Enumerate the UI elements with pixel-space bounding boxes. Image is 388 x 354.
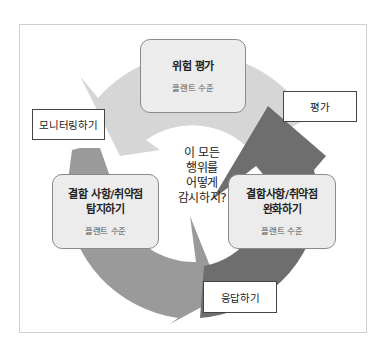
stage-title-line: 위험 평가 xyxy=(172,60,214,73)
action-label-monitor: 모니터링하기 xyxy=(32,109,105,140)
action-label-respond: 응답하기 xyxy=(203,281,277,313)
stage-subtitle: 플랜트 수준 xyxy=(261,224,303,236)
stage-title-line: 결함사항/취약점 xyxy=(246,187,318,202)
stage-title: 결함사항/취약점 완화하기 xyxy=(246,187,318,217)
stage-title-line: 탐지하기 xyxy=(68,202,143,217)
center-question-line: 행위를 xyxy=(164,161,240,176)
stage-title: 위험 평가 xyxy=(172,59,214,74)
center-question: 이 모든 행위를 어떻게 감시하지? xyxy=(164,146,240,206)
stage-title-line: 결함 사항/취약점 xyxy=(68,187,143,202)
stage-title: 결함 사항/취약점 탐지하기 xyxy=(68,187,143,217)
stage-detect: 결함 사항/취약점 탐지하기 플랜트 수준 xyxy=(52,174,159,249)
stage-subtitle: 플랜트 수준 xyxy=(85,224,127,236)
stage-title-line: 완화하기 xyxy=(246,202,318,217)
center-question-line: 감시하지? xyxy=(164,191,240,206)
stage-mitigate: 결함사항/취약점 완화하기 플랜트 수준 xyxy=(228,174,336,249)
action-label-assess: 평가 xyxy=(283,91,357,122)
stage-risk-assessment: 위험 평가 플랜트 수준 xyxy=(140,39,246,113)
center-question-line: 이 모든 xyxy=(164,146,240,161)
center-question-line: 어떻게 xyxy=(164,176,240,191)
stage-subtitle: 플랜트 수준 xyxy=(172,81,214,93)
